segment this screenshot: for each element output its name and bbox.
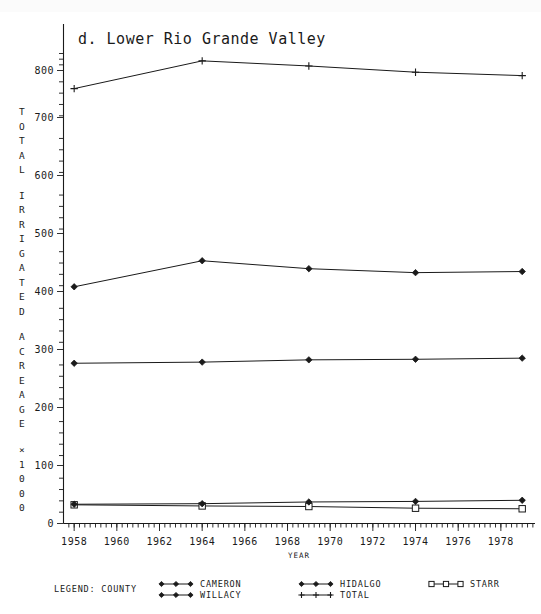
svg-text:0: 0 — [19, 473, 25, 484]
data-point-marker — [159, 581, 164, 586]
x-tick-label: 1960 — [104, 536, 130, 547]
svg-text:100: 100 — [34, 460, 54, 471]
svg-text:E: E — [19, 375, 25, 386]
svg-text:A: A — [19, 150, 25, 161]
data-point-marker — [70, 85, 77, 92]
data-point-marker — [327, 592, 333, 598]
legend-item-hidalgo: HIDALGO — [299, 579, 382, 589]
data-point-marker — [298, 592, 304, 598]
x-tick-label: 1974 — [402, 536, 428, 547]
legend-item-starr: STARR — [429, 579, 500, 589]
svg-text:R: R — [19, 219, 25, 230]
x-tick-label: 1964 — [189, 536, 215, 547]
x-axis-title: YEAR — [288, 551, 310, 560]
x-axis-tick-labels: 1958196019621964196619681970197219741976… — [61, 536, 514, 547]
series-willacy — [71, 497, 525, 507]
legend-label: HIDALGO — [340, 579, 381, 589]
data-point-marker — [305, 62, 312, 69]
line-chart-svg: 0 100 200 300 400 500 600 700 800 195819… — [0, 0, 541, 614]
svg-text:T: T — [19, 106, 25, 117]
x-tick-label: 1970 — [317, 536, 343, 547]
x-tick-label: 1962 — [146, 536, 172, 547]
series-total — [70, 57, 525, 92]
data-series-layer — [70, 57, 525, 512]
legend-label: CAMERON — [200, 579, 241, 589]
data-point-marker — [412, 356, 418, 362]
data-point-marker — [173, 581, 178, 586]
x-tick-label: 1976 — [445, 536, 471, 547]
x-tick-label: 1966 — [232, 536, 258, 547]
data-point-marker — [519, 497, 525, 503]
svg-text:I: I — [19, 233, 25, 244]
data-point-marker — [306, 357, 312, 363]
svg-text:E: E — [19, 291, 25, 302]
data-point-marker — [412, 269, 418, 275]
svg-text:R: R — [19, 204, 25, 215]
data-point-marker — [519, 506, 525, 512]
svg-text:I: I — [19, 190, 25, 201]
svg-text:600: 600 — [34, 170, 54, 181]
svg-text:R: R — [19, 360, 25, 371]
series-cameron — [71, 355, 525, 366]
svg-text:A: A — [19, 389, 25, 400]
data-point-marker — [159, 592, 164, 597]
chart-legend: LEGEND: COUNTYCAMERONHIDALGOSTARRWILLACY… — [54, 579, 500, 600]
x-tick-label: 1972 — [360, 536, 386, 547]
data-point-marker — [188, 592, 193, 597]
svg-text:0: 0 — [47, 518, 54, 529]
svg-text:D: D — [19, 306, 25, 317]
svg-text:400: 400 — [34, 286, 54, 297]
series-line — [74, 261, 522, 287]
data-point-marker — [313, 592, 319, 598]
series-line — [74, 61, 522, 89]
data-point-marker — [519, 268, 525, 274]
series-line — [74, 500, 522, 504]
data-point-marker — [306, 265, 312, 271]
x-axis-ticks — [69, 524, 533, 532]
svg-text:G: G — [19, 404, 25, 415]
svg-text:A: A — [19, 262, 25, 273]
data-point-marker — [412, 505, 418, 511]
svg-text:A: A — [19, 331, 25, 342]
legend-title: LEGEND: COUNTY — [54, 584, 137, 594]
data-point-marker — [199, 258, 205, 264]
series-hidalgo — [71, 258, 525, 290]
svg-text:0: 0 — [19, 488, 25, 499]
svg-text:G: G — [19, 248, 25, 259]
legend-item-willacy: WILLACY — [159, 590, 242, 600]
data-point-marker — [299, 581, 304, 586]
series-starr — [71, 502, 525, 512]
series-line — [74, 505, 522, 509]
y-axis-ticks — [57, 54, 64, 524]
data-point-marker — [198, 57, 205, 64]
x-tick-label: 1968 — [274, 536, 300, 547]
svg-text:800: 800 — [34, 65, 54, 76]
svg-text:700: 700 — [34, 112, 54, 123]
data-point-marker — [313, 581, 318, 586]
legend-label: WILLACY — [200, 590, 241, 600]
y-axis-tick-labels: 0 100 200 300 400 500 600 700 800 — [34, 65, 54, 529]
svg-text:200: 200 — [34, 402, 54, 413]
svg-text:300: 300 — [34, 344, 54, 355]
svg-text:T: T — [19, 277, 25, 288]
svg-text:500: 500 — [34, 228, 54, 239]
data-point-marker — [71, 360, 77, 366]
svg-text:O: O — [19, 121, 25, 132]
legend-label: TOTAL — [340, 590, 370, 600]
x-tick-label: 1978 — [488, 536, 514, 547]
svg-text:L: L — [19, 164, 25, 175]
data-point-marker — [328, 581, 333, 586]
svg-text:×: × — [19, 444, 25, 455]
data-point-marker — [429, 581, 434, 586]
data-point-marker — [199, 359, 205, 365]
data-point-marker — [412, 68, 419, 75]
svg-text:C: C — [19, 346, 25, 357]
data-point-marker — [519, 355, 525, 361]
svg-text:E: E — [19, 418, 25, 429]
svg-text:T: T — [19, 135, 25, 146]
data-point-marker — [518, 72, 525, 79]
legend-item-cameron: CAMERON — [159, 579, 242, 589]
data-point-marker — [71, 284, 77, 290]
data-point-marker — [188, 581, 193, 586]
chart-figure: 0 100 200 300 400 500 600 700 800 195819… — [0, 0, 541, 614]
